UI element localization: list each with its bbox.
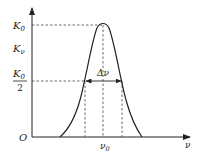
- y-tick-peak-label: K0: [12, 20, 25, 33]
- y-tick-half-max-label: K0 2: [12, 68, 27, 93]
- width-label: Δν: [96, 68, 109, 78]
- line-profile-diagram: Δν K0 Kν K0 2 O ν0 ν: [0, 0, 215, 158]
- x-axis-label: ν: [185, 140, 191, 150]
- svg-text:2: 2: [17, 83, 23, 93]
- x-tick-center-label: ν0: [100, 141, 110, 153]
- svg-text:K0: K0: [12, 68, 25, 81]
- profile-curve: [60, 24, 142, 138]
- y-tick-generic-label: Kν: [12, 43, 25, 56]
- origin-label: O: [19, 132, 27, 143]
